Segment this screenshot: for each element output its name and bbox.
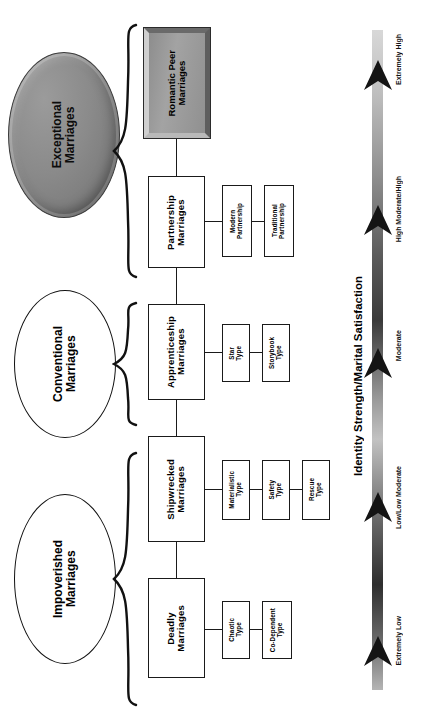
connector-modern-to-traditional (252, 221, 264, 222)
node-label-shipwrecked: Shipwrecked Marriages (166, 459, 187, 520)
subtype-label-co-dependent-type: Co-Dependent Type (270, 608, 284, 652)
diagram-canvas: Exceptional Marriages Conventional Marri… (0, 0, 431, 719)
subtype-label-chaotic-type: Chaotic Type (229, 618, 243, 642)
brace-exceptional (112, 22, 138, 280)
subtype-traditional-partnership: Traditional Partnership (264, 185, 294, 257)
subtype-co-dependent-type: Co-Dependent Type (262, 601, 292, 659)
subtype-chaotic-type: Chaotic Type (222, 601, 250, 659)
scale-arrowhead-low-low-moderate (364, 492, 392, 526)
scale-label-high-moderate-high: High Moderate/High (395, 176, 402, 242)
connector-apprenticeship-branch (205, 352, 222, 353)
node-label-partnership: Partnership Marriages (166, 195, 187, 250)
category-label-exceptional: Exceptional Marriages (51, 101, 77, 168)
subtype-storybook-type: Storybook Type (262, 324, 290, 382)
node-label-romantic-peer: Romantic Peer Marriages (167, 50, 188, 117)
connector-star-to-storybook (250, 352, 262, 353)
subtype-label-materialistic-type: Materialistic Type (229, 471, 243, 509)
node-romantic-peer-marriages: Romantic Peer Marriages (144, 28, 210, 138)
scale-label-low-low-moderate: Low/Low Moderate (395, 466, 402, 529)
subtype-label-modern-partnership: Modern Partnership (230, 203, 244, 239)
category-oval-exceptional: Exceptional Marriages (8, 52, 120, 218)
brace-conventional (112, 300, 138, 428)
connector-romantic-to-partnership (176, 138, 177, 176)
subtype-label-star-type: Star Type (229, 346, 243, 361)
category-label-conventional: Conventional Marriages (52, 326, 78, 402)
connector-apprenticeship-to-shipwrecked (176, 400, 177, 436)
node-label-deadly: Deadly Marriages (166, 605, 187, 652)
connector-deadly-branch (205, 629, 222, 630)
connector-materialistic-to-safety (250, 489, 262, 490)
connector-partnership-branch (205, 221, 222, 222)
connector-partnership-to-apprenticeship (176, 268, 177, 304)
brace-impoverished (112, 450, 138, 708)
scale-label-extremely-high: Extremely High (395, 34, 402, 85)
subtype-label-storybook-type: Storybook Type (269, 337, 283, 369)
connector-chaotic-to-codependent (250, 629, 262, 630)
category-oval-impoverished: Impoverished Marriages (14, 494, 116, 664)
scale-label-moderate: Moderate (395, 330, 402, 361)
subtype-label-safety-type: Safety Type (269, 480, 283, 500)
subtype-label-rescue-type: Rescue Type (309, 478, 323, 501)
scale-arrowhead-extremely-high (364, 60, 392, 94)
node-partnership-marriages: Partnership Marriages (148, 176, 205, 268)
subtype-modern-partnership: Modern Partnership (222, 185, 252, 257)
subtype-rescue-type: Rescue Type (302, 460, 330, 520)
connector-safety-to-rescue (290, 489, 302, 490)
node-label-apprenticeship: Apprenticeship Marriages (166, 316, 187, 388)
connector-shipwrecked-branch (205, 489, 222, 490)
scale-axis-title: Identity Strength/Marital Satisfaction (352, 276, 364, 476)
scale-arrowhead-extremely-low (364, 636, 392, 670)
category-label-impoverished: Impoverished Marriages (52, 540, 78, 618)
subtype-safety-type: Safety Type (262, 460, 290, 520)
node-shipwrecked-marriages: Shipwrecked Marriages (148, 436, 205, 542)
node-deadly-marriages: Deadly Marriages (148, 578, 205, 678)
scale-arrowhead-moderate (364, 348, 392, 382)
subtype-star-type: Star Type (222, 324, 250, 382)
scale-arrowhead-high-moderate-high (364, 205, 392, 239)
subtype-materialistic-type: Materialistic Type (222, 460, 250, 520)
category-oval-conventional: Conventional Marriages (14, 290, 116, 438)
scale-label-extremely-low: Extremely Low (395, 616, 402, 665)
subtype-label-traditional-partnership: Traditional Partnership (272, 203, 286, 239)
node-apprenticeship-marriages: Apprenticeship Marriages (148, 304, 205, 400)
connector-shipwrecked-to-deadly (176, 542, 177, 578)
